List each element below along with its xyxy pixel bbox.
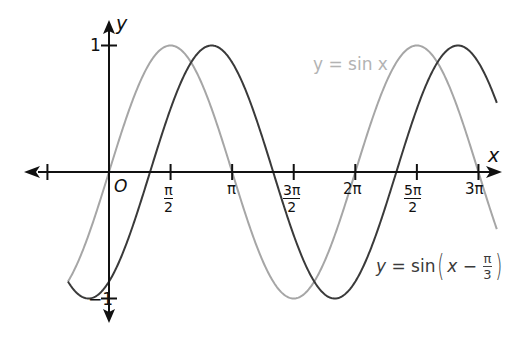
eqn-open-paren: ( (438, 251, 445, 281)
origin-label: O (114, 178, 127, 195)
eqn-frac-num: π (484, 252, 492, 265)
frac-num: 3π (283, 183, 300, 197)
x-tick-label-2pi: 2π (343, 182, 362, 197)
x-tick-label-5pi-over-2: 5π 2 (404, 183, 421, 214)
sin-curve-label: y = sin x (313, 56, 388, 73)
x-tick-label-3pi: 3π (465, 182, 484, 197)
eqn-fraction: π 3 (483, 252, 491, 281)
shifted-curve-label: y = sin ( x − π 3 ) (376, 251, 504, 281)
x-tick-label-pi-over-2: π 2 (164, 183, 173, 214)
frac-den: 2 (164, 200, 173, 214)
eqn-x: x (447, 258, 457, 275)
frac-den: 2 (408, 200, 417, 214)
x-tick-label-3pi-over-2: 3π 2 (283, 183, 300, 214)
eqn-sin: = sin (386, 258, 435, 275)
x-tick-label-pi: π (227, 182, 236, 197)
x-axis-left-arrow-icon (24, 166, 40, 178)
eqn-minus: − (457, 258, 482, 275)
frac-num: 5π (404, 183, 421, 197)
y-tick-label-1: 1 (90, 37, 101, 54)
frac-num: π (164, 183, 172, 197)
y-axis-label: y (116, 14, 127, 33)
eqn-close-paren: ) (495, 251, 502, 281)
y-tick-label-neg1: −1 (88, 291, 113, 308)
eqn-frac-den: 3 (483, 268, 491, 281)
x-axis-label: x (488, 146, 499, 165)
sin-curve-label-text: y = sin x (313, 54, 388, 74)
eqn-y: y (376, 258, 386, 275)
plot-area (0, 0, 520, 343)
frac-den: 2 (287, 200, 296, 214)
